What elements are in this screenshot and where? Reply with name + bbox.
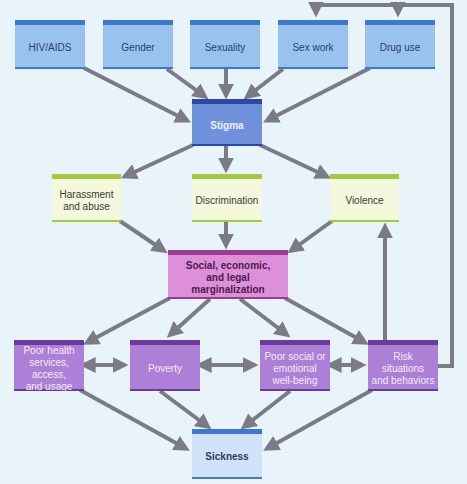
arrow-marginalization-poorsocial — [240, 299, 286, 334]
arrow-marginalization-poorhealth — [88, 298, 170, 342]
arrow-violence-marginalization — [292, 221, 332, 250]
node-label-line1: Harassment — [60, 189, 114, 201]
node-drug-use: Drug use — [365, 20, 435, 69]
node-label: Gender — [121, 42, 154, 54]
node-label: HIV/AIDS — [29, 42, 72, 54]
arrow-marginalization-poverty — [171, 299, 210, 334]
node-label-line1: Risk situations — [371, 351, 435, 375]
node-label-line2: services, access, — [17, 357, 81, 381]
node-label-line2: and abuse — [60, 201, 114, 213]
node-risk-situations: Risk situations and behaviors — [368, 340, 438, 391]
node-label-line1: Social, economic, — [171, 260, 285, 272]
node-label-line1: Poor health — [17, 345, 81, 357]
flow-diagram — [0, 0, 467, 484]
node-label-line2: and legal marginalization — [171, 272, 285, 296]
node-label-line1: Poor social or — [264, 351, 325, 363]
node-label: Stigma — [210, 120, 243, 132]
node-label: Violence — [345, 195, 383, 207]
node-label-line2: and behaviors — [371, 375, 435, 387]
node-poor-health-services: Poor health services, access, and usage — [14, 340, 84, 391]
arrow-stigma-violence — [260, 145, 326, 176]
node-discrimination: Discrimination — [192, 174, 262, 222]
node-sex-work: Sex work — [278, 20, 348, 69]
node-poor-social-wellbeing: Poor social or emotional well-being — [260, 340, 330, 391]
node-gender: Gender — [103, 20, 173, 69]
arrow-marginalization-risk — [285, 298, 364, 342]
arrow-harassment-marginalization — [120, 221, 163, 250]
node-violence: Violence — [330, 174, 399, 222]
node-label: Sex work — [292, 42, 333, 54]
node-label: Poverty — [148, 363, 182, 375]
node-label: Discrimination — [196, 195, 259, 207]
node-label-line3: well-being — [264, 375, 325, 387]
node-sickness: Sickness — [192, 429, 262, 479]
arrow-druguse-stigma — [268, 68, 370, 120]
node-label: Sexuality — [205, 42, 246, 54]
arrow-hiv-stigma — [84, 68, 186, 120]
node-label-line2: emotional — [264, 363, 325, 375]
arrow-poverty-sickness — [160, 391, 207, 426]
node-label: Drug use — [380, 42, 421, 54]
node-stigma: Stigma — [192, 99, 262, 146]
arrow-sexwork-stigma — [248, 69, 283, 96]
arrow-poorsocial-sickness — [245, 391, 290, 426]
node-hiv-aids: HIV/AIDS — [15, 20, 85, 69]
node-label: Sickness — [205, 451, 248, 463]
node-marginalization: Social, economic, and legal marginalizat… — [168, 250, 288, 299]
node-sexuality: Sexuality — [190, 20, 260, 69]
arrow-gender-stigma — [167, 69, 204, 96]
arrow-stigma-harassment — [126, 145, 193, 176]
node-harassment-abuse: Harassment and abuse — [52, 174, 121, 222]
node-poverty: Poverty — [130, 340, 200, 391]
node-label-line3: and usage — [17, 381, 81, 393]
arrow-risk-sickness — [268, 390, 372, 448]
